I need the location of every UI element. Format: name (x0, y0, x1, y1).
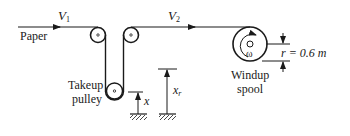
windup-label-line1: Windup (231, 68, 269, 82)
ground-hatch-x (130, 115, 147, 120)
x-label: x (143, 94, 150, 108)
takeup-label-line1: Takeup (68, 78, 103, 92)
ground-hatch-xr (159, 115, 176, 120)
idler-pulley-left (91, 28, 106, 43)
takeup-label-line2: pulley (72, 92, 102, 106)
v2-label: V2 (168, 8, 180, 24)
windup-label-line2: spool (237, 82, 264, 96)
paper-tension-diagram: V1 Paper V2 Takeup pulley x xr ω r = 0.6… (0, 0, 350, 136)
takeup-pulley (106, 83, 124, 100)
idler-pulley-right (124, 28, 139, 43)
xr-label: xr (172, 83, 182, 98)
v1-label: V1 (58, 8, 70, 24)
radius-label: r = 0.6 m (281, 46, 327, 60)
omega-label: ω (246, 48, 253, 59)
paper-label: Paper (20, 29, 47, 43)
